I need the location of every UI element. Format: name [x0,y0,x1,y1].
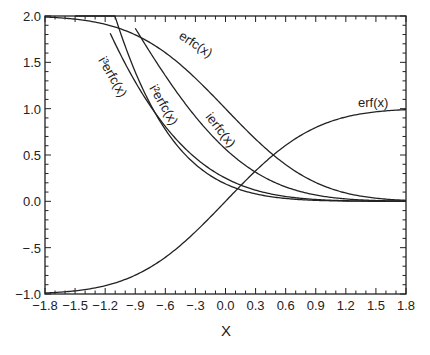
y-tick-label: −.5 [23,241,41,256]
y-tick-label: 0.0 [23,194,41,209]
y-tick-label: 2.0 [23,9,41,24]
y-tick-label: 1.5 [23,55,41,70]
plot-curves [45,16,406,293]
x-tick-label: −1.5 [62,298,88,313]
x-tick-label: 1.5 [367,298,385,313]
x-axis-label: X [221,322,231,339]
plot-axes: −1.8−1.5−1.2−.9−.6−.30.00.30.60.91.21.51… [15,9,415,313]
x-tick-label: 0.6 [277,298,295,313]
curve-i3erfcx [75,16,406,201]
x-tick-label: 0.0 [216,298,234,313]
x-tick-label: −.3 [186,298,204,313]
label-erfc: erfc(x) [176,28,215,61]
x-tick-label: 1.8 [397,298,415,313]
x-tick-label: −1.2 [92,298,118,313]
x-tick-label: 1.2 [337,298,355,313]
curve-labels: erf(x) erfc(x) ierfc(x) i²erfc(x) i³erfc… [95,28,388,339]
plot-frame [45,16,406,294]
y-tick-label: 1.0 [23,102,41,117]
label-i2erfc: i²erfc(x) [146,82,181,128]
x-tick-label: 0.9 [307,298,325,313]
y-tick-label: 0.5 [23,148,41,163]
x-tick-label: −.9 [126,298,144,313]
x-tick-label: −.6 [156,298,174,313]
curve-erfcx [45,17,406,200]
y-tick-label: −1.0 [15,287,41,302]
label-erf: erf(x) [358,95,388,110]
label-i3erfc: i³erfc(x) [95,54,130,100]
error-function-chart: −1.8−1.5−1.2−.9−.6−.30.00.30.60.91.21.51… [0,0,430,355]
x-tick-label: 0.3 [247,298,265,313]
